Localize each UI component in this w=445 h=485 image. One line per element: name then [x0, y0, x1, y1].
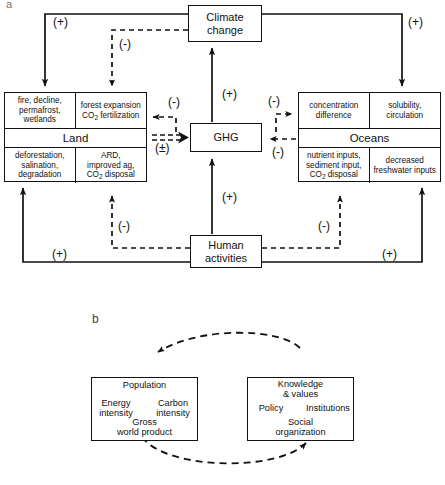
land-title-row: Land [5, 129, 146, 148]
node-climate-change[interactable]: Climate change [188, 5, 262, 42]
panel-b-letter: b [92, 312, 99, 326]
node-oceans[interactable]: concentration difference solubility, cir… [298, 92, 441, 182]
ghg-label: GHG [213, 131, 238, 144]
figure-canvas: a b [0, 0, 445, 485]
land-cell-ard: ARD, improved ag, CO2 disposal [76, 148, 147, 183]
sign-human-to-oceans-plus: (+) [382, 248, 397, 260]
left-box-top-label: Population [91, 380, 198, 390]
oceans-top-row: concentration difference solubility, cir… [299, 93, 440, 129]
land-cell-fire-decline: fire, decline, permafrost, wetlands [5, 93, 76, 128]
human-activities-label: Human activities [205, 239, 247, 264]
climate-change-label: Climate change [206, 11, 243, 36]
right-box-top-label: Knowledge & values [247, 379, 354, 400]
oceans-bottom-row: nutrient inputs, sediment input, CO2 dis… [299, 148, 440, 183]
node-human-activities[interactable]: Human activities [190, 235, 262, 268]
left-box-left-label: Energy intensity [91, 398, 141, 419]
left-box-bottom-label: Gross world product [91, 417, 198, 438]
sign-human-to-land-plus: (+) [52, 248, 67, 260]
right-box-bottom-label: Social organization [247, 417, 354, 438]
right-box-right-label: Institutions [301, 403, 355, 413]
sign-land-to-ghg-plusminus: (±) [155, 142, 170, 154]
arrow-human-to-oceans-plus [262, 188, 422, 262]
left-box-right-label: Carbon intensity [148, 398, 198, 419]
oceans-title: Oceans [350, 132, 390, 144]
land-cell-deforestation: deforestation, salination, degradation [5, 148, 76, 183]
sign-human-to-oceans-minus: (-) [318, 220, 330, 232]
sign-human-to-ghg-plus: (+) [222, 191, 237, 203]
oceans-title-row: Oceans [299, 129, 440, 148]
node-ghg[interactable]: GHG [190, 123, 262, 152]
land-top-row: fire, decline, permafrost, wetlands fore… [5, 93, 146, 129]
sign-ghg-to-oceans-minus: (-) [268, 95, 280, 107]
arrow-ghg-to-land-minus [153, 117, 176, 132]
arrow-ghg-to-oceans-minus [276, 114, 292, 132]
land-title: Land [63, 132, 89, 144]
sign-ghg-to-climate-plus: (+) [222, 88, 237, 100]
panel-a-letter: a [6, 0, 12, 10]
oceans-cell-concentration-difference: concentration difference [299, 93, 370, 128]
sign-ghg-to-land-minus: (-) [168, 96, 180, 108]
arrow-climate-to-oceans-plus [262, 14, 402, 86]
oceans-cell-decreased-freshwater: decreased freshwater inputs [370, 148, 441, 183]
oceans-cell-nutrient-inputs: nutrient inputs, sediment input, CO2 dis… [299, 148, 370, 183]
arrow-human-to-land-plus [23, 188, 190, 262]
sign-climate-to-oceans-plus: (+) [408, 16, 423, 28]
oceans-cell-solubility-circulation: solubility, circulation [370, 93, 441, 128]
land-cell-forest-expansion: forest expansion CO2 fertilization [76, 93, 147, 128]
arrow-right-to-left-curve [158, 333, 300, 352]
sign-climate-to-land-plus: (+) [53, 16, 68, 28]
sign-oceans-to-ghg-minus: (-) [272, 146, 284, 158]
right-box-left-label: Policy [247, 403, 295, 413]
sign-human-to-land-minus: (-) [118, 220, 130, 232]
sign-climate-to-land-minus: (-) [119, 38, 131, 50]
land-bottom-row: deforestation, salination, degradation A… [5, 148, 146, 183]
node-land[interactable]: fire, decline, permafrost, wetlands fore… [4, 92, 147, 182]
